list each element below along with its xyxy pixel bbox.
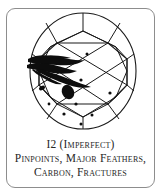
pinpoint	[48, 103, 51, 106]
diamond-clarity-grade-card: I2 (Imperfect) Pinpoints, Major Feathers…	[6, 8, 155, 188]
pinpoint	[108, 91, 111, 94]
clarity-features-line-2: Carbon, Fractures	[7, 165, 154, 179]
pinpoint	[91, 114, 94, 117]
pinpoint	[86, 53, 89, 56]
diamond-clarity-plot	[7, 9, 154, 137]
feather-upper-spur	[47, 56, 71, 59]
pinpoint	[79, 78, 82, 81]
pinpoint	[80, 123, 83, 126]
clarity-grade-label: I2 (Imperfect)	[7, 137, 154, 151]
clarity-features-line-1: Pinpoints, Major Feathers,	[7, 151, 154, 165]
diamond-facet-diagram-svg	[7, 9, 154, 137]
inclusion-major-feathers	[27, 55, 91, 87]
pinpoint	[62, 112, 65, 115]
clarity-caption: I2 (Imperfect) Pinpoints, Major Feathers…	[7, 137, 154, 179]
pinpoint	[74, 102, 77, 105]
